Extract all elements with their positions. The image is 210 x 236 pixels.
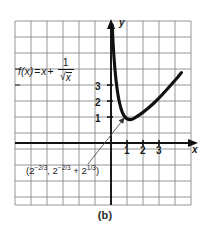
minimum-point-annotation: (2−2/3, 2−2/3 + 21/3) (26, 164, 99, 176)
annotation-exponent-1: −2/3 (34, 164, 47, 171)
fraction-numerator: 1 (60, 57, 72, 68)
function-term-x: x (41, 65, 46, 77)
plus-sign: + (48, 65, 54, 77)
x-tick-label-1: 1 (124, 145, 130, 156)
figure-caption: (b) (0, 209, 210, 221)
x-tick-label-3: 3 (156, 145, 162, 156)
x-axis-label: x (192, 144, 198, 155)
function-lhs: f(x) (18, 65, 33, 77)
figure-container: f(x) = x + 1 √ x (2−2/3, 2−2/3 + 21/3) y… (0, 0, 210, 236)
fraction-one-over-sqrt-x: 1 √ x (58, 57, 74, 83)
equals-sign: = (34, 65, 40, 77)
y-axis-label: y (119, 17, 125, 28)
y-axis-ticks (107, 85, 113, 117)
function-curve (112, 25, 181, 120)
function-equation-label: f(x) = x + 1 √ x (18, 58, 74, 84)
annotation-close: ) (96, 165, 99, 176)
radicand: x (66, 72, 72, 84)
plot-svg (0, 0, 210, 236)
annotation-plus: + 2 (71, 165, 87, 176)
y-tick-label-2: 2 (95, 97, 101, 108)
fraction-denominator: √ x (58, 71, 74, 84)
y-tick-label-3: 3 (95, 81, 101, 92)
annotation-exponent-3: 1/3 (87, 164, 96, 171)
annotation-comma: , 2 (47, 165, 58, 176)
square-root-icon: √ x (60, 71, 72, 84)
x-tick-label-2: 2 (140, 145, 146, 156)
annotation-leader-line (88, 118, 125, 165)
annotation-exponent-2: −2/3 (58, 164, 71, 171)
grid-lines (15, 21, 191, 205)
y-tick-label-1: 1 (95, 113, 101, 124)
